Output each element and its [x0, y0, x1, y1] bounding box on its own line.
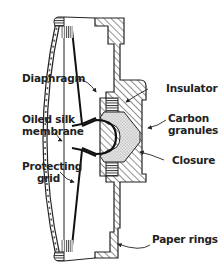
diaphragm	[72, 30, 96, 246]
label-protecting: Protecting	[22, 160, 82, 172]
label-insulator: Insulator	[166, 82, 217, 94]
label-grid: grid	[37, 172, 60, 184]
label-carbon: Carbon	[168, 112, 209, 124]
paper-rings	[61, 26, 73, 252]
label-closure: Closure	[172, 154, 215, 166]
label-granules: granules	[168, 124, 218, 136]
label-membrane: membrane	[22, 125, 84, 137]
label-paper-rings: Paper rings	[152, 233, 218, 245]
label-oiled-silk: Oiled silk	[22, 113, 75, 125]
label-diaphragm: Diaphragm	[22, 72, 85, 84]
protecting-grid	[43, 22, 60, 256]
